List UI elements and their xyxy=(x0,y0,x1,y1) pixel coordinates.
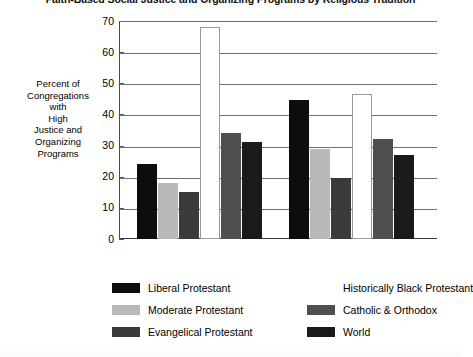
bar xyxy=(331,178,351,239)
legend-item-label: Historically Black Protestant xyxy=(343,283,473,294)
y-axis-tick-label: 50 xyxy=(88,78,114,89)
bar xyxy=(310,149,330,239)
legend-swatch-icon xyxy=(112,283,140,293)
chart-legend: Liberal ProtestantModerate ProtestantEva… xyxy=(112,281,457,341)
y-axis-tick-label: 70 xyxy=(88,16,114,27)
y-axis-tick-labels: 706050403020100 xyxy=(88,21,114,239)
bar xyxy=(352,94,372,239)
legend-swatch-icon xyxy=(307,327,335,337)
scan-artifact xyxy=(0,341,461,357)
bar xyxy=(137,164,157,239)
bar xyxy=(179,192,199,239)
legend-item-label: Moderate Protestant xyxy=(148,305,243,316)
bar xyxy=(200,27,220,239)
legend-item[interactable]: Liberal Protestant xyxy=(112,281,230,295)
legend-item[interactable]: Evangelical Protestant xyxy=(112,325,252,339)
chart-title: Faith-Based Social Justice and Organizin… xyxy=(0,0,461,5)
y-axis-tick-label: 30 xyxy=(88,140,114,151)
legend-item-label: Evangelical Protestant xyxy=(148,327,252,338)
y-axis-tick-mark xyxy=(119,239,124,240)
legend-item[interactable]: Catholic & Orthodox xyxy=(307,303,437,317)
legend-item-label: Liberal Protestant xyxy=(148,283,230,294)
y-axis-tick-label: 60 xyxy=(88,47,114,58)
legend-swatch-icon xyxy=(307,283,335,293)
legend-item[interactable]: Moderate Protestant xyxy=(112,303,243,317)
legend-item[interactable]: Historically Black Protestant xyxy=(307,281,473,295)
y-axis-tick-label: 20 xyxy=(88,171,114,182)
legend-swatch-icon xyxy=(112,305,140,315)
y-axis-tick-label: 10 xyxy=(88,202,114,213)
bar xyxy=(158,183,178,239)
bars-layer xyxy=(119,21,437,239)
legend-item-label: Catholic & Orthodox xyxy=(343,305,437,316)
y-axis-tick-label: 40 xyxy=(88,109,114,120)
legend-item[interactable]: World xyxy=(307,325,370,339)
bar xyxy=(221,133,241,239)
bar xyxy=(394,155,414,239)
bar xyxy=(242,142,262,239)
bar xyxy=(373,139,393,239)
y-axis-tick-label: 0 xyxy=(88,234,114,245)
legend-item-label: World xyxy=(343,327,370,338)
legend-swatch-icon xyxy=(307,305,335,315)
bar xyxy=(289,100,309,239)
legend-swatch-icon xyxy=(112,327,140,337)
